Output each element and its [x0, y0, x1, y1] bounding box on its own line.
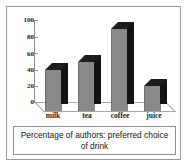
bar-milk-front [45, 70, 62, 111]
bar-milk[interactable] [45, 63, 61, 111]
x-tick-label-tea: tea [71, 112, 103, 120]
bar-juice-front [144, 86, 161, 111]
bar-coffee[interactable] [111, 22, 127, 111]
bar-juice[interactable] [144, 79, 160, 111]
figure-frame: 100 80 60 40 20 0 [6, 6, 181, 160]
bar-tea[interactable] [78, 55, 94, 111]
bar-milk-side [61, 63, 68, 104]
bar-tea-side [94, 55, 101, 104]
x-tick-label-coffee: coffee [103, 112, 137, 120]
bar-chart: 100 80 60 40 20 0 [7, 7, 182, 121]
caption-box: Percentage of authors: preferred choice … [13, 126, 176, 155]
bar-coffee-front [111, 29, 128, 111]
bar-tea-front [78, 62, 95, 111]
x-tick-label-juice: juice [138, 112, 170, 120]
bar-coffee-side [127, 22, 134, 104]
caption-text: Percentage of authors: preferred choice … [14, 130, 175, 151]
x-tick-label-milk: milk [37, 112, 69, 120]
bars-layer [7, 7, 182, 121]
